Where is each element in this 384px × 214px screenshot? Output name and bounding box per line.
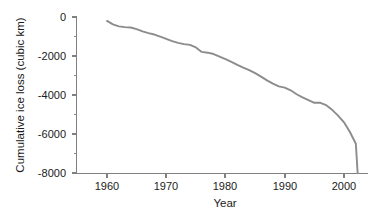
y-tick-label-minus4000: -4000 [38, 89, 66, 101]
chart-canvas: 0 -2000 -4000 -6000 -8000 1960 1970 1980… [0, 0, 384, 214]
ice-loss-line-chart: 0 -2000 -4000 -6000 -8000 1960 1970 1980… [0, 0, 384, 214]
x-axis-ticks [107, 174, 344, 179]
y-axis-title: Cumulative ice loss (cubic km) [14, 17, 26, 172]
cumulative-ice-loss-series [107, 21, 358, 173]
x-tick-label-1980: 1980 [213, 180, 237, 192]
x-axis-title: Year [213, 197, 236, 209]
y-axis-major-ticks [72, 17, 77, 173]
y-tick-label-minus6000: -6000 [38, 128, 66, 140]
y-tick-label-minus8000: -8000 [38, 167, 66, 179]
x-tick-label-1990: 1990 [273, 180, 297, 192]
x-tick-label-1960: 1960 [95, 180, 119, 192]
x-tick-label-2000: 2000 [332, 180, 356, 192]
y-tick-label-0: 0 [60, 11, 66, 23]
y-tick-label-minus2000: -2000 [38, 50, 66, 62]
x-tick-label-1970: 1970 [154, 180, 178, 192]
